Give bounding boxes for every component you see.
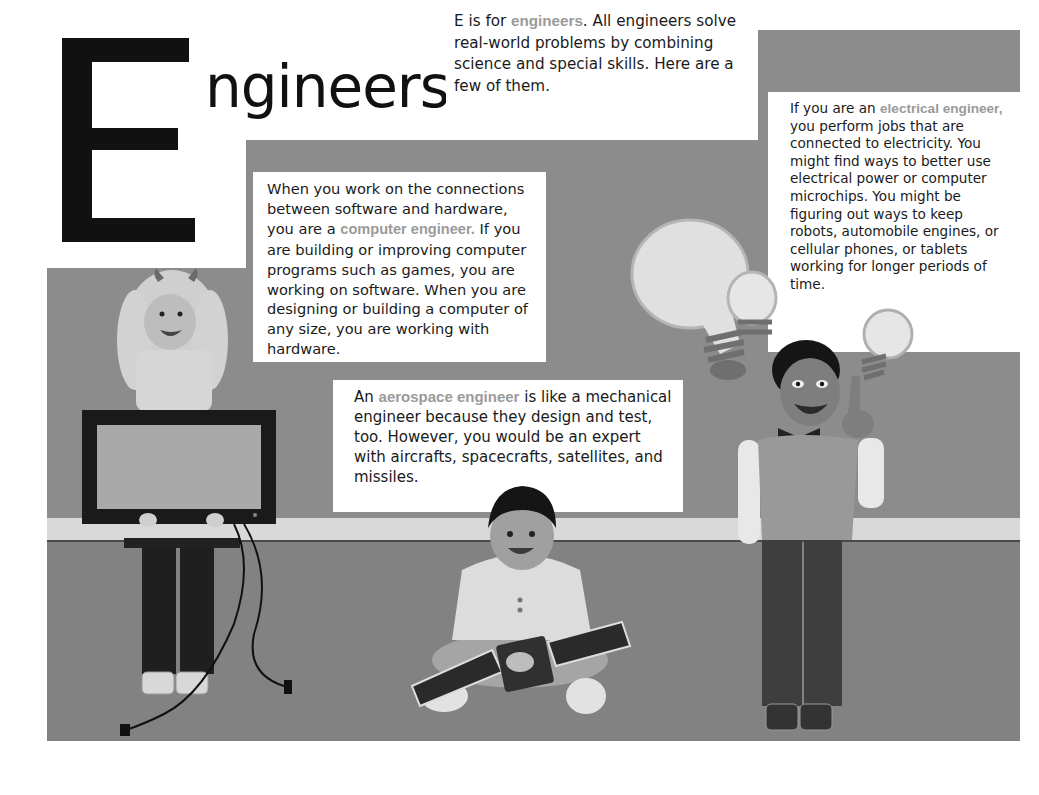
- electrical-text-rest: you perform jobs that are connected to e…: [790, 118, 999, 292]
- electrical-engineer-paragraph: If you are an electrical engineer, you p…: [768, 92, 1020, 352]
- computer-engineer-highlight: computer engineer.: [340, 221, 475, 237]
- computer-engineer-paragraph: When you work on the connections between…: [253, 172, 546, 362]
- computer-text-rest: If you are building or improving compute…: [267, 220, 528, 357]
- wall-left: [47, 268, 257, 530]
- aerospace-engineer-paragraph: An aerospace engineer is like a mechanic…: [333, 380, 683, 512]
- page-title: ngineers: [205, 58, 449, 116]
- aerospace-engineer-highlight: aerospace engineer: [379, 388, 520, 405]
- aerospace-text: An: [354, 388, 379, 406]
- intro-highlight: engineers: [511, 12, 583, 29]
- electrical-engineer-highlight: electrical engineer,: [880, 101, 1002, 116]
- floor: [47, 542, 1020, 741]
- intro-paragraph: E is for engineers. All engineers solve …: [446, 0, 758, 138]
- title-initial-e: [62, 38, 195, 242]
- electrical-text: If you are an: [790, 100, 880, 116]
- intro-text: E is for: [454, 12, 511, 30]
- wainscot-stripe: [47, 518, 1020, 542]
